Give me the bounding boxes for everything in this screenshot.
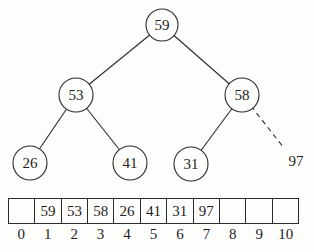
node-value: 59 bbox=[155, 17, 170, 33]
node-value: 31 bbox=[184, 156, 199, 172]
array-index-7: 7 bbox=[193, 226, 219, 243]
array-cell-10 bbox=[272, 199, 298, 223]
array-cell-4: 26 bbox=[113, 199, 139, 223]
tree-node-31: 31 bbox=[174, 147, 208, 181]
array-index-4: 4 bbox=[114, 226, 140, 243]
array-cell-1: 59 bbox=[34, 199, 60, 223]
tree-node-41: 41 bbox=[113, 146, 147, 180]
node-value: 58 bbox=[235, 87, 250, 103]
array-cell-7: 97 bbox=[193, 199, 219, 223]
node-value: 53 bbox=[69, 87, 84, 103]
array-cell-9 bbox=[245, 199, 271, 223]
array-cell-5: 41 bbox=[140, 199, 166, 223]
array-cell-8 bbox=[219, 199, 245, 223]
array-index-0: 0 bbox=[8, 226, 34, 243]
tree-node-26: 26 bbox=[13, 146, 47, 180]
tree-node-58: 58 bbox=[225, 78, 259, 112]
tree-node-53: 53 bbox=[59, 78, 93, 112]
array-cell-2: 53 bbox=[61, 199, 87, 223]
array-index-9: 9 bbox=[246, 226, 272, 243]
tree-node-97-label: 97 bbox=[289, 153, 305, 169]
array-representation: 59 53 58 26 41 31 97 0 1 2 3 4 5 6 7 8 9… bbox=[8, 198, 299, 243]
array-index-labels: 0 1 2 3 4 5 6 7 8 9 10 bbox=[8, 226, 299, 243]
array-cell-6: 31 bbox=[166, 199, 192, 223]
array-index-5: 5 bbox=[140, 226, 166, 243]
array-index-8: 8 bbox=[220, 226, 246, 243]
array-index-10: 10 bbox=[273, 226, 299, 243]
heap-tree-and-array-diagram: 59 53 58 26 41 31 97 59 53 58 bbox=[0, 0, 314, 252]
array-index-1: 1 bbox=[34, 226, 60, 243]
edge-58-97-dashed bbox=[251, 106, 284, 148]
array-index-2: 2 bbox=[61, 226, 87, 243]
node-value: 26 bbox=[23, 155, 39, 171]
node-value: 41 bbox=[123, 155, 138, 171]
array-index-6: 6 bbox=[167, 226, 193, 243]
array-cells: 59 53 58 26 41 31 97 bbox=[8, 198, 299, 224]
array-cell-0 bbox=[9, 199, 34, 223]
tree-node-59: 59 bbox=[146, 9, 178, 41]
binary-tree: 59 53 58 26 41 31 97 bbox=[0, 0, 314, 196]
array-index-3: 3 bbox=[87, 226, 113, 243]
array-cell-3: 58 bbox=[87, 199, 113, 223]
